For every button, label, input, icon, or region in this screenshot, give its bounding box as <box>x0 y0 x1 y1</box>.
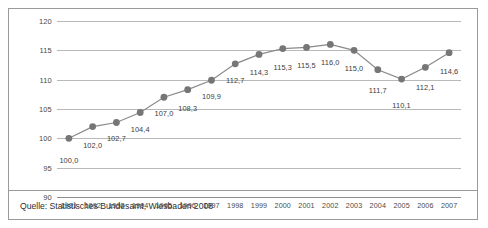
data-point-marker <box>279 45 286 52</box>
data-point-marker <box>89 123 96 130</box>
y-tick-label: 120 <box>39 17 52 26</box>
y-tick-label: 100 <box>39 134 52 143</box>
series-polyline <box>69 44 449 138</box>
data-point-marker <box>232 60 239 67</box>
data-point-marker <box>422 64 429 71</box>
x-tick-label: 2001 <box>298 201 314 210</box>
x-tick-label: 1999 <box>251 201 267 210</box>
x-tick-label: 2004 <box>370 201 386 210</box>
y-tick-label: 115 <box>39 46 52 55</box>
data-point-label: 114,6 <box>440 67 458 76</box>
data-point-label: 109,9 <box>202 92 221 101</box>
data-point-marker <box>327 41 334 48</box>
y-tick-label: 110 <box>39 75 52 84</box>
x-tick-label: 2007 <box>441 201 457 210</box>
x-tick-label: 2006 <box>417 201 433 210</box>
y-tick-label: 95 <box>43 163 52 172</box>
data-point-label: 100,0 <box>59 156 78 165</box>
data-point-marker <box>256 51 263 58</box>
x-tick-label: 2002 <box>322 201 338 210</box>
data-point-marker <box>161 94 168 101</box>
data-point-label: 110,1 <box>392 101 410 110</box>
data-point-label: 115,3 <box>274 63 292 72</box>
data-point-label: 104,4 <box>131 125 150 134</box>
data-point-label: 112,1 <box>416 83 434 92</box>
data-point-marker <box>184 86 191 93</box>
data-point-label: 114,3 <box>250 68 268 77</box>
y-tick-label: 105 <box>39 105 52 114</box>
data-point-label: 108,3 <box>178 104 197 113</box>
data-point-label: 115,0 <box>345 64 363 73</box>
data-point-marker <box>137 109 144 116</box>
x-tick-label: 2005 <box>393 201 409 210</box>
source-divider <box>9 190 477 191</box>
data-point-label: 107,0 <box>154 109 173 118</box>
x-tick-label: 2000 <box>275 201 291 210</box>
source-note: Quelle: Statistisches Bundesamt, Wiesbad… <box>20 201 213 211</box>
data-point-label: 112,7 <box>226 76 244 85</box>
gridline-90 <box>57 197 461 198</box>
data-point-marker <box>303 44 310 51</box>
data-point-label: 102,7 <box>107 134 126 143</box>
data-point-marker <box>65 135 72 142</box>
plot-area: 100,0102,0102,7104,4107,0108,3109,9112,7… <box>57 21 461 197</box>
x-tick-label: 1998 <box>227 201 243 210</box>
data-point-label: 116,0 <box>321 58 339 67</box>
data-point-label: 111,7 <box>369 86 387 95</box>
data-point-label: 115,5 <box>297 61 315 70</box>
data-point-marker <box>446 49 453 56</box>
data-point-marker <box>208 77 215 84</box>
x-tick-label: 2003 <box>346 201 362 210</box>
data-point-marker <box>351 47 358 54</box>
data-point-marker <box>398 76 405 83</box>
chart-figure: 100,0102,0102,7104,4107,0108,3109,9112,7… <box>8 8 478 220</box>
data-point-label: 102,0 <box>83 141 102 150</box>
data-point-marker <box>374 66 381 73</box>
data-point-marker <box>113 119 120 126</box>
